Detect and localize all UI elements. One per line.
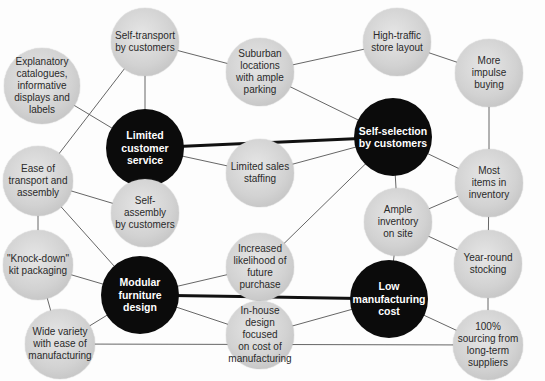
node-sales-staffing: Limited sales staffing [226, 139, 294, 207]
node-label: Year-round stocking [460, 252, 515, 276]
node-explanatory: Explanatory catalogues, informative disp… [4, 48, 80, 124]
node-suburban: Suburban locations with ample parking [226, 38, 294, 106]
node-label: Limited sales staffing [228, 161, 292, 185]
node-label: High-traffic store layout [368, 30, 426, 54]
node-knock-down: "Knock-down" kit packaging [3, 230, 73, 300]
activity-system-diagram: Explanatory catalogues, informative disp… [0, 0, 545, 381]
node-self-transport: Self-transport by customers [111, 8, 179, 76]
node-label: Increased likelihood of future purchase [231, 243, 290, 291]
node-year-round: Year-round stocking [454, 230, 522, 298]
node-label: Self-selection by customers [356, 125, 430, 150]
node-label: Suburban locations with ample parking [233, 48, 287, 96]
node-label: Explanatory catalogues, informative disp… [11, 56, 73, 116]
node-wide-variety: Wide variety with ease of manufacturing [25, 309, 95, 379]
node-sourcing: 100% sourcing from long-term suppliers [453, 310, 523, 380]
node-self-selection: Self-selection by customers [354, 98, 432, 176]
node-label: In-house design focused on cost of manuf… [225, 305, 294, 365]
node-label: "Knock-down" kit packaging [4, 253, 72, 277]
node-low-cost: Low manufacturing cost [350, 260, 428, 338]
node-label: Wide variety with ease of manufacturing [25, 326, 94, 362]
node-label: Self-assembly by customers [111, 195, 179, 231]
node-label: Most items in inventory [466, 165, 513, 201]
node-ease-transport: Ease of transport and assembly [3, 146, 73, 216]
node-limited-service: Limited customer service [106, 109, 184, 187]
node-impulse: More impulse buying [455, 39, 523, 107]
node-label: Modular furniture design [115, 276, 164, 314]
node-future-purchase: Increased likelihood of future purchase [226, 233, 294, 301]
node-label: 100% sourcing from long-term suppliers [455, 321, 522, 369]
node-ample-inventory: Ample inventory on site [364, 188, 432, 256]
node-label: Limited customer service [118, 129, 171, 167]
node-label: More impulse buying [469, 55, 509, 91]
node-label: Ease of transport and assembly [6, 163, 71, 199]
node-high-traffic: High-traffic store layout [363, 8, 431, 76]
node-label: Low manufacturing cost [350, 280, 429, 318]
node-in-house: In-house design focused on cost of manuf… [226, 301, 294, 369]
node-self-assembly: Self-assembly by customers [111, 179, 179, 247]
node-most-items: Most items in inventory [455, 149, 523, 217]
node-label: Ample inventory on site [375, 204, 422, 240]
node-modular: Modular furniture design [101, 256, 179, 334]
node-label: Self-transport by customers [112, 30, 178, 54]
